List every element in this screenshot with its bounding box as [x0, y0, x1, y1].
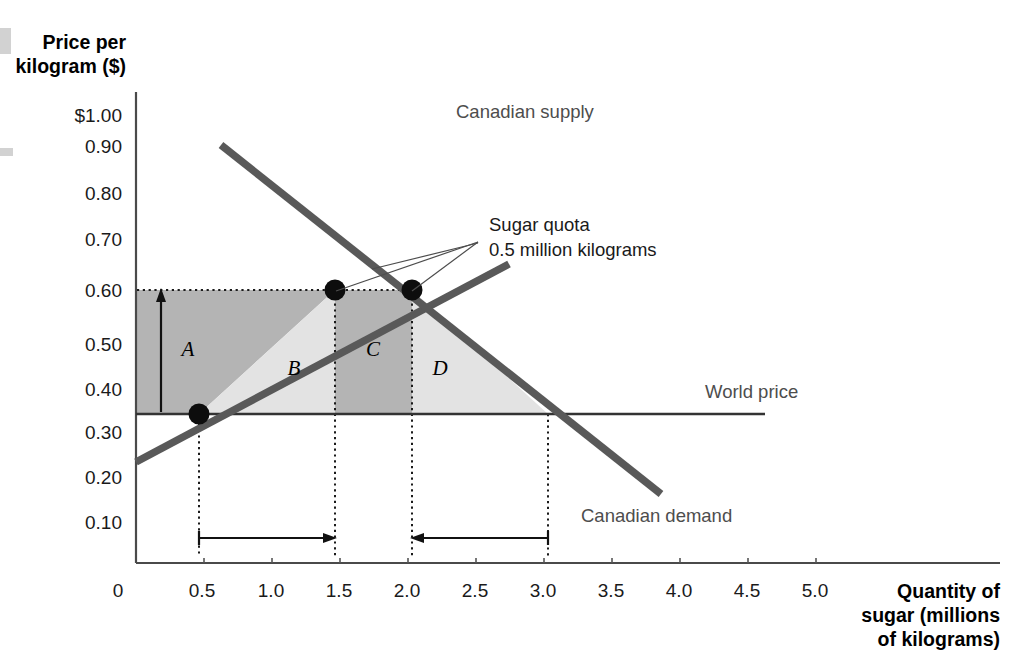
y-axis-title-line2: kilogram ($) [15, 55, 126, 77]
page-edge-mark-bottom [0, 148, 13, 156]
x-axis-title-line2: sugar (millions [861, 604, 1000, 626]
region-label-b: B [288, 356, 301, 380]
data-point-low [189, 404, 210, 425]
y-axis-title-line1: Price per [43, 31, 127, 53]
quota-span-arrow-right [410, 531, 548, 545]
canadian-supply-label: Canadian supply [456, 101, 595, 122]
x-tick-6: 2.5 [462, 580, 488, 601]
world-price-label: World price [705, 381, 798, 402]
y-tick-4: 0.70 [85, 229, 122, 250]
x-tick-4: 1.5 [326, 580, 352, 601]
x-axis-title-line3: of kilograms) [878, 628, 1000, 650]
canadian-demand-label: Canadian demand [581, 505, 732, 526]
y-tick-5: 0.60 [85, 280, 122, 301]
y-tick-1: $1.00 [74, 105, 122, 126]
x-tick-3: 1.0 [258, 580, 284, 601]
y-tick-10: 0.10 [85, 512, 122, 533]
x-tick-9: 4.0 [666, 580, 692, 601]
x-tick-1: 0 [113, 580, 124, 601]
x-axis-title-line1: Quantity of [897, 580, 1000, 602]
data-point-supply-quota [325, 280, 346, 301]
figure-canvas: Price per kilogram ($) $1.00 0.90 0.80 0… [0, 0, 1021, 671]
y-tick-7: 0.40 [85, 379, 122, 400]
sugar-quota-label-line1: Sugar quota [489, 214, 591, 235]
x-tick-5: 2.0 [394, 580, 420, 601]
y-tick-3: 0.80 [85, 183, 122, 204]
quota-span-arrow-left [199, 531, 337, 545]
y-tick-6: 0.50 [85, 334, 122, 355]
economics-quota-chart: Price per kilogram ($) $1.00 0.90 0.80 0… [0, 0, 1021, 671]
region-label-d: D [431, 356, 447, 380]
y-tick-8: 0.30 [85, 422, 122, 443]
x-tick-10: 4.5 [734, 580, 760, 601]
x-tick-11: 5.0 [802, 580, 828, 601]
y-tick-2: 0.90 [85, 136, 122, 157]
region-label-a: A [180, 337, 195, 361]
x-tick-7: 3.0 [530, 580, 556, 601]
x-tick-8: 3.5 [598, 580, 624, 601]
sugar-quota-label-line2: 0.5 million kilograms [489, 239, 657, 260]
data-point-demand-quota [402, 280, 423, 301]
x-tick-2: 0.5 [189, 580, 215, 601]
region-label-c: C [366, 337, 381, 361]
page-edge-mark-top [0, 28, 11, 54]
y-tick-9: 0.20 [85, 467, 122, 488]
